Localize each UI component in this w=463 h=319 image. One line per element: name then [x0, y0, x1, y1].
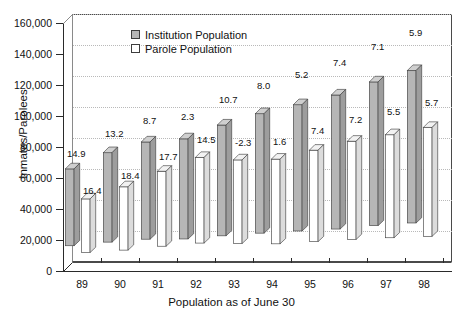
- bar-value-label: 2.3: [181, 111, 194, 122]
- legend-item-label: Parole Population: [145, 43, 232, 55]
- bar-parole-92: [195, 124, 210, 271]
- x-tick-mark-2: [139, 258, 140, 263]
- y-tick-mark-7: [56, 54, 63, 55]
- y-tick-mark-0: [56, 271, 63, 272]
- x-tick-label-98: 98: [409, 278, 439, 290]
- x-axis-baseline: [63, 271, 452, 272]
- bar-value-label: 17.7: [159, 151, 178, 162]
- x-tick-mark-4: [215, 258, 216, 263]
- y-tick-label-2: 40,000: [0, 204, 52, 214]
- gridline-8: [73, 14, 452, 15]
- legend-item-parole: Parole Population: [131, 42, 247, 55]
- bar-shape: [423, 87, 438, 271]
- bar-value-label: 8.7: [143, 115, 156, 126]
- bar-shape: [217, 84, 232, 271]
- x-tick-label-93: 93: [219, 278, 249, 290]
- bar-shape: [233, 127, 248, 271]
- legend-item-label: Institution Population: [145, 29, 247, 41]
- filled-gray-swatch: [131, 30, 140, 39]
- bar-institution-96: [331, 47, 346, 271]
- x-tick-mark-3: [177, 258, 178, 263]
- bar-value-label: 7.4: [333, 57, 346, 68]
- x-tick-label-91: 91: [143, 278, 173, 290]
- plot-area: 14.916.413.218.48.717.72.314.510.7-2.38.…: [63, 14, 452, 272]
- bar-value-label: 1.6: [273, 136, 286, 147]
- y-tick-label-3: 60,000: [0, 173, 52, 183]
- y-tick-label-8: 160,000: [0, 18, 52, 28]
- y-tick-mark-2: [56, 209, 63, 210]
- bar-institution-97: [369, 31, 384, 271]
- bar-parole-97: [385, 96, 400, 271]
- y-tick-mark-1: [56, 240, 63, 241]
- bar-shape: [255, 70, 270, 271]
- y-tick-label-5: 100,000: [0, 111, 52, 121]
- bar-value-label: 5.2: [295, 69, 308, 80]
- bar-shape: [271, 126, 286, 271]
- x-tick-label-97: 97: [371, 278, 401, 290]
- x-tick-mark-0: [63, 258, 64, 263]
- chart-legend: Institution PopulationParole Population: [131, 28, 247, 56]
- bar-value-label: 8.0: [257, 80, 270, 91]
- bar-shape: [369, 31, 384, 271]
- bar-value-label: 5.5: [387, 106, 400, 117]
- y-tick-label-6: 120,000: [0, 80, 52, 90]
- legend-item-institution: Institution Population: [131, 28, 247, 41]
- gridline-7: [73, 45, 452, 46]
- x-axis-title: Population as of June 30: [0, 296, 463, 308]
- bar-shape: [179, 101, 194, 271]
- bar-parole-96: [347, 104, 362, 271]
- y-tick-label-4: 80,000: [0, 142, 52, 152]
- x-tick-label-96: 96: [333, 278, 363, 290]
- bar-institution-95: [293, 59, 308, 271]
- x-tick-mark-5: [253, 258, 254, 263]
- bar-institution-93: [217, 84, 232, 271]
- bar-value-label: 7.4: [311, 125, 324, 136]
- bar-chart: Inmates/Parolees 020,00040,00060,00080,0…: [0, 0, 463, 319]
- y-tick-mark-5: [56, 116, 63, 117]
- bar-institution-92: [179, 101, 194, 271]
- bar-parole-93: [233, 127, 248, 271]
- x-tick-label-95: 95: [295, 278, 325, 290]
- bar-value-label: 7.1: [371, 41, 384, 52]
- bar-shape: [347, 104, 362, 271]
- bar-institution-94: [255, 70, 270, 271]
- bar-value-label: 10.7: [219, 94, 238, 105]
- bar-parole-94: [271, 126, 286, 271]
- x-tick-label-94: 94: [257, 278, 287, 290]
- x-tick-mark-7: [329, 258, 330, 263]
- y-tick-mark-4: [56, 147, 63, 148]
- x-tick-label-89: 89: [67, 278, 97, 290]
- bar-shape: [385, 96, 400, 271]
- bar-value-label: 18.4: [121, 170, 140, 181]
- x-tick-mark-6: [291, 258, 292, 263]
- empty-white-swatch: [131, 44, 140, 53]
- bar-shape: [331, 47, 346, 271]
- bar-parole-98: [423, 87, 438, 271]
- bar-value-label: 13.2: [105, 128, 124, 139]
- x-tick-label-90: 90: [105, 278, 135, 290]
- x-tick-mark-9: [405, 258, 406, 263]
- bar-value-label: 5.9: [409, 27, 422, 38]
- bar-shape: [103, 118, 118, 271]
- y-tick-mark-6: [56, 85, 63, 86]
- bar-value-label: 7.2: [349, 114, 362, 125]
- y-tick-label-0: 0: [0, 266, 52, 276]
- y-tick-mark-8: [56, 23, 63, 24]
- bar-institution-98: [407, 17, 422, 271]
- y-tick-mark-3: [56, 178, 63, 179]
- bar-value-label: 14.9: [67, 148, 86, 159]
- y-tick-label-7: 140,000: [0, 49, 52, 59]
- bar-shape: [309, 115, 324, 271]
- x-tick-label-92: 92: [181, 278, 211, 290]
- bar-shape: [141, 105, 156, 271]
- x-tick-mark-8: [367, 258, 368, 263]
- bar-shape: [195, 124, 210, 271]
- bar-value-label: 14.5: [197, 134, 216, 145]
- bar-value-label: -2.3: [235, 137, 251, 148]
- x-tick-mark-1: [101, 258, 102, 263]
- bar-value-label: 16.4: [83, 185, 102, 196]
- x-tick-mark-10: [443, 258, 444, 263]
- bar-institution-90: [103, 118, 118, 271]
- bar-shape: [407, 17, 422, 271]
- bar-parole-95: [309, 115, 324, 271]
